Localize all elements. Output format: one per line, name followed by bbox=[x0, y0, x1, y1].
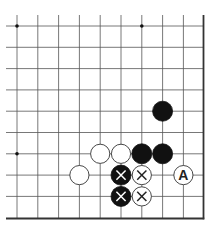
black-stone bbox=[153, 101, 173, 121]
white-stone bbox=[91, 144, 110, 163]
go-board: A bbox=[0, 0, 215, 235]
black-stone bbox=[111, 165, 131, 185]
white-stone bbox=[111, 144, 130, 163]
stone-label: A bbox=[178, 167, 188, 183]
black-stone bbox=[111, 186, 131, 206]
black-stone-body bbox=[132, 144, 152, 164]
white-stone: A bbox=[174, 166, 193, 185]
black-stone-body bbox=[153, 144, 173, 164]
white-stone-body bbox=[111, 144, 130, 163]
star-point bbox=[140, 24, 144, 28]
white-stone bbox=[132, 187, 151, 206]
black-stone-body bbox=[153, 101, 173, 121]
white-stone-body bbox=[91, 144, 110, 163]
white-stone-body bbox=[70, 166, 89, 185]
white-stone bbox=[70, 166, 89, 185]
white-stone bbox=[132, 166, 151, 185]
board-grid bbox=[6, 15, 204, 219]
black-stone bbox=[132, 144, 152, 164]
black-stone bbox=[153, 144, 173, 164]
star-point bbox=[15, 152, 19, 156]
star-point bbox=[15, 24, 19, 28]
